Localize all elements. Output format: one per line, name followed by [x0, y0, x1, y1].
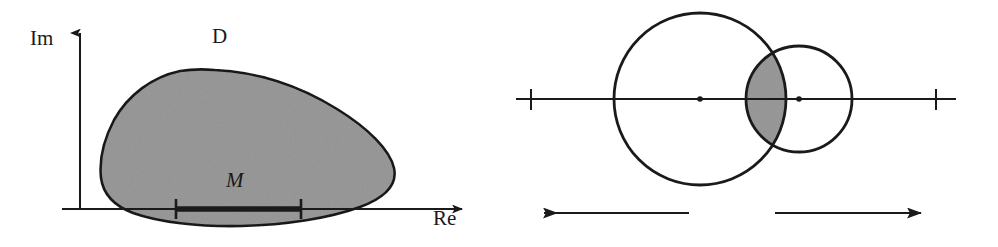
domain-label-d: D — [212, 26, 227, 47]
complex-domain-svg — [0, 0, 499, 247]
domain-D-shape — [101, 69, 395, 226]
two-disks-svg — [499, 0, 998, 247]
center-dot-a2 — [796, 96, 802, 102]
figure-root: Im Re D M — [0, 0, 998, 247]
segment-label-m: M — [226, 170, 244, 191]
two-disks-panel: a1 a2 M — [499, 0, 998, 247]
center-dot-a1 — [697, 96, 703, 102]
imaginary-axis-label: Im — [30, 28, 53, 49]
complex-domain-panel: Im Re D M — [0, 0, 499, 247]
real-axis-label: Re — [433, 208, 456, 229]
